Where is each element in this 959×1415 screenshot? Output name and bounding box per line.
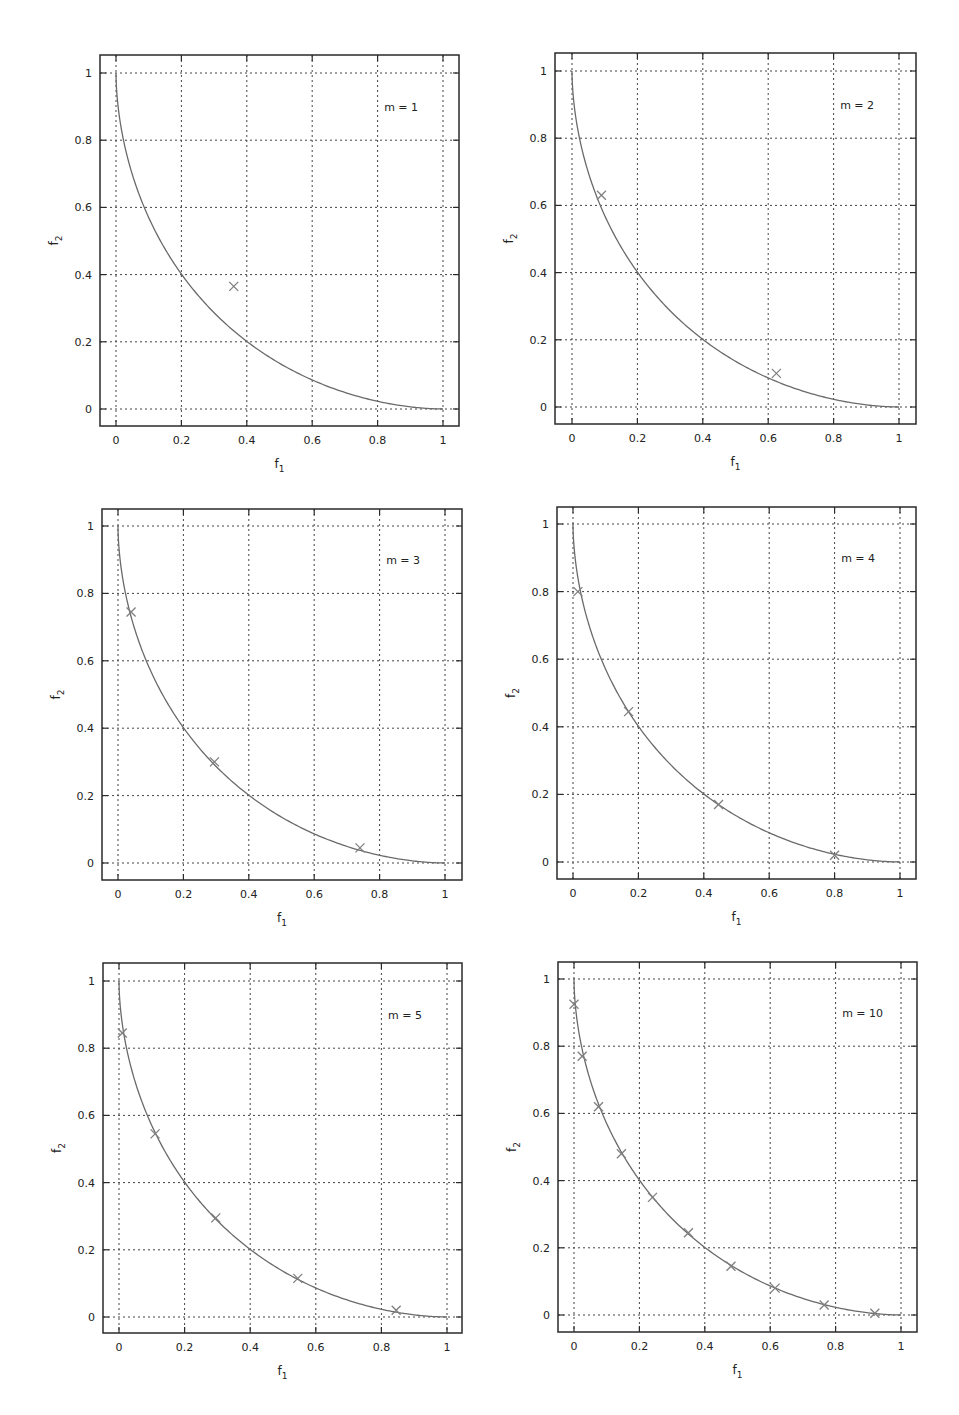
panel-annotation: m = 2 [840, 99, 874, 112]
y-tick-label: 0.8 [75, 134, 93, 147]
x-tick-label: 0 [570, 887, 577, 900]
x-tick-label: 0 [116, 1341, 123, 1354]
y-tick-label: 1 [540, 65, 547, 78]
x-tick-label: 1 [897, 887, 904, 900]
y-tick-label: 0.2 [78, 1244, 96, 1257]
x-axis-label: f1 [731, 455, 741, 472]
pareto-front-curve [116, 73, 443, 409]
y-tick-label: 0.6 [532, 653, 550, 666]
x-tick-label: 0.4 [241, 1341, 259, 1354]
y-tick-label: 0.4 [78, 1177, 96, 1190]
x-axis-label: f1 [733, 1363, 743, 1380]
x-tick-label: 0.4 [695, 887, 713, 900]
y-tick-label: 1 [85, 67, 92, 80]
y-tick-label: 0.4 [75, 269, 93, 282]
y-tick-label: 0.8 [533, 1040, 551, 1053]
y-tick-label: 0.8 [78, 1042, 96, 1055]
x-tick-label: 0 [571, 1340, 578, 1353]
x-tick-label: 0.2 [630, 887, 648, 900]
y-tick-label: 0.4 [533, 1175, 551, 1188]
y-tick-label: 0.4 [530, 267, 548, 280]
x-tick-label: 1 [896, 432, 903, 445]
solution-markers [573, 587, 839, 860]
y-tick-label: 0 [543, 1309, 550, 1322]
x-marker-icon [772, 369, 781, 378]
chart-panel: 00.20.40.60.8100.20.40.60.81f1f2m = 3 [49, 509, 462, 928]
x-tick-label: 0.8 [827, 1340, 845, 1353]
y-tick-label: 0.2 [77, 790, 95, 803]
x-tick-label: 0.6 [307, 1341, 325, 1354]
x-tick-label: 0.2 [176, 1341, 194, 1354]
x-tick-label: 0 [115, 888, 122, 901]
y-axis-label: f2 [505, 1142, 522, 1152]
pareto-front-curve [574, 979, 901, 1315]
x-marker-icon [726, 1262, 735, 1271]
x-marker-icon [597, 191, 606, 200]
y-axis-label: f2 [49, 690, 66, 700]
x-tick-label: 0.4 [238, 434, 256, 447]
x-tick-label: 0.4 [696, 1340, 714, 1353]
x-tick-label: 0.6 [761, 1340, 779, 1353]
y-tick-label: 0.8 [532, 586, 550, 599]
panel-annotation: m = 3 [386, 554, 420, 567]
y-tick-label: 0.2 [75, 336, 93, 349]
chart-panel: 00.20.40.60.8100.20.40.60.81f1f2m = 4 [504, 507, 916, 927]
y-tick-label: 1 [542, 518, 549, 531]
y-axis-label: f2 [47, 236, 64, 246]
y-tick-label: 0.4 [77, 722, 95, 735]
x-tick-label: 1 [444, 1341, 451, 1354]
y-tick-label: 0 [542, 856, 549, 869]
x-tick-label: 0.6 [303, 434, 321, 447]
x-axis-label: f1 [275, 457, 285, 474]
chart-panel: 00.20.40.60.8100.20.40.60.81f1f2m = 2 [502, 53, 916, 472]
x-tick-label: 0.8 [826, 887, 844, 900]
solution-markers [570, 1000, 880, 1318]
panel-annotation: m = 4 [841, 552, 875, 565]
x-marker-icon [624, 707, 633, 716]
x-tick-label: 0.6 [759, 432, 777, 445]
y-tick-label: 0 [540, 401, 547, 414]
y-tick-label: 0.6 [77, 655, 95, 668]
y-tick-label: 0.8 [530, 132, 548, 145]
x-marker-icon [151, 1129, 160, 1138]
y-tick-label: 0.8 [77, 587, 95, 600]
x-tick-label: 0.2 [175, 888, 193, 901]
y-axis-label: f2 [504, 688, 521, 698]
y-tick-label: 1 [543, 973, 550, 986]
x-tick-label: 0.8 [825, 432, 843, 445]
x-tick-label: 0 [113, 434, 120, 447]
x-marker-icon [578, 1052, 587, 1061]
x-axis-label: f1 [277, 911, 287, 928]
y-axis-label: f2 [502, 234, 519, 244]
y-tick-label: 0.2 [530, 334, 548, 347]
y-tick-label: 0.4 [532, 721, 550, 734]
y-tick-label: 0 [87, 857, 94, 870]
x-marker-icon [617, 1149, 626, 1158]
x-tick-label: 0.6 [760, 887, 778, 900]
panel-annotation: m = 10 [842, 1007, 883, 1020]
x-marker-icon [648, 1193, 657, 1202]
x-axis-label: f1 [732, 910, 742, 927]
x-marker-icon [684, 1228, 693, 1237]
chart-panel: 00.20.40.60.8100.20.40.60.81f1f2m = 5 [50, 963, 462, 1381]
figure-grid: 00.20.40.60.8100.20.40.60.81f1f2m = 100.… [0, 0, 959, 1415]
y-tick-label: 0.6 [75, 201, 93, 214]
x-tick-label: 0.2 [629, 432, 647, 445]
x-tick-label: 1 [440, 434, 447, 447]
pareto-front-curve [118, 526, 445, 863]
y-tick-label: 0 [85, 403, 92, 416]
x-tick-label: 0.8 [369, 434, 387, 447]
solution-markers [229, 282, 238, 291]
x-marker-icon [771, 1284, 780, 1293]
x-tick-label: 1 [442, 888, 449, 901]
y-tick-label: 1 [87, 520, 94, 533]
panel-annotation: m = 1 [384, 101, 418, 114]
y-tick-label: 1 [88, 975, 95, 988]
x-marker-icon [714, 800, 723, 809]
x-tick-label: 0.2 [631, 1340, 649, 1353]
y-tick-label: 0.6 [78, 1109, 96, 1122]
x-tick-label: 0.8 [371, 888, 389, 901]
y-tick-label: 0 [88, 1311, 95, 1324]
y-axis-label: f2 [50, 1143, 67, 1153]
x-tick-label: 0.4 [694, 432, 712, 445]
